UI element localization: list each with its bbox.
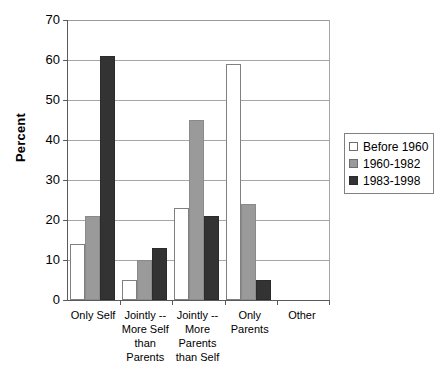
- bar: [174, 208, 189, 300]
- bar-group: [172, 20, 224, 300]
- bar-group-inner: [278, 20, 323, 300]
- x-category-label-line: than: [119, 336, 171, 350]
- y-tick-label: 20: [20, 213, 60, 226]
- x-category-label-line: Jointly --: [171, 308, 223, 322]
- legend-item: Before 1960: [349, 138, 428, 155]
- legend-item: 1983-1998: [349, 172, 428, 189]
- x-category-label-line: Parents: [119, 350, 171, 364]
- y-tick-label: 70: [20, 13, 60, 26]
- y-tick-label: 40: [20, 133, 60, 146]
- bar-group: [68, 20, 120, 300]
- x-tick-mark: [329, 300, 330, 305]
- bar-group: [277, 20, 329, 300]
- bar-group: [120, 20, 172, 300]
- x-tick-mark: [277, 300, 278, 305]
- legend-label: 1960-1982: [363, 158, 420, 170]
- bar: [122, 280, 137, 300]
- x-category-label-line: More Self: [119, 322, 171, 336]
- x-category-label-line: Parents: [224, 322, 276, 336]
- bar-group-inner: [122, 20, 167, 300]
- legend-swatch-icon: [349, 176, 358, 185]
- bar: [137, 260, 152, 300]
- y-tick-label: 10: [20, 253, 60, 266]
- legend-swatch-icon: [349, 159, 358, 168]
- bar-group-inner: [174, 20, 219, 300]
- x-category-label: OnlyParents: [224, 308, 276, 336]
- bar-group-inner: [226, 20, 271, 300]
- bar: [226, 64, 241, 300]
- x-category-label: Only Self: [67, 308, 119, 322]
- x-tick-mark: [120, 300, 121, 305]
- bar-group: [225, 20, 277, 300]
- x-category-label-line: Jointly --: [119, 308, 171, 322]
- x-category-label: Jointly --MoreParentsthan Self: [171, 308, 223, 364]
- x-category-label-line: than Self: [171, 350, 223, 364]
- bar: [204, 216, 219, 300]
- x-category-label-line: Only: [224, 308, 276, 322]
- legend-item: 1960-1982: [349, 155, 428, 172]
- x-category-label-line: Only Self: [67, 308, 119, 322]
- x-tick-mark: [225, 300, 226, 305]
- y-tick-label: 60: [20, 53, 60, 66]
- bar: [189, 120, 204, 300]
- bar: [85, 216, 100, 300]
- x-category-label: Other: [276, 308, 328, 322]
- plot-area: [67, 20, 329, 301]
- x-category-label-line: Parents: [171, 336, 223, 350]
- bar-chart: Percent 706050403020100 Only SelfJointly…: [0, 0, 443, 376]
- bar-group-inner: [70, 20, 115, 300]
- bar: [70, 244, 85, 300]
- bar: [241, 204, 256, 300]
- legend-label: Before 1960: [363, 141, 428, 153]
- legend-swatch-icon: [349, 142, 358, 151]
- y-tick-label: 0: [20, 293, 60, 306]
- y-tick-label: 50: [20, 93, 60, 106]
- legend-label: 1983-1998: [363, 175, 420, 187]
- bar: [152, 248, 167, 300]
- bar: [100, 56, 115, 300]
- plot-right-border: [329, 20, 330, 300]
- x-category-label-line: Other: [276, 308, 328, 322]
- x-category-label: Jointly --More SelfthanParents: [119, 308, 171, 364]
- y-tick-label: 30: [20, 173, 60, 186]
- legend: Before 19601960-19821983-1998: [344, 133, 434, 194]
- bar: [256, 280, 271, 300]
- x-tick-mark: [172, 300, 173, 305]
- x-category-label-line: More: [171, 322, 223, 336]
- y-tick-mark: [63, 300, 68, 301]
